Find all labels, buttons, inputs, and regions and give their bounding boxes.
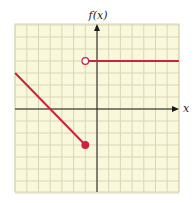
- piecewise-function-graph: f(x) x: [0, 0, 196, 203]
- x-axis-label: x: [183, 102, 190, 115]
- closed-dot-icon: [82, 142, 89, 149]
- open-circle-icon: [82, 58, 89, 65]
- y-axis-label: f(x): [88, 9, 108, 22]
